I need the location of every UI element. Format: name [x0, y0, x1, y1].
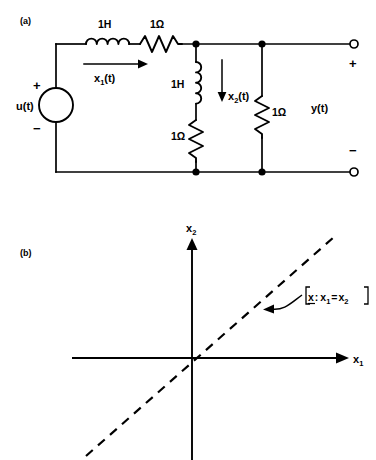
output-label: y(t) — [311, 102, 328, 114]
source-plus-sign: + — [33, 78, 41, 93]
resistor-R3-symbol — [255, 96, 269, 138]
identity-line-dashed — [86, 237, 334, 456]
junction-node-middle-bottom — [192, 168, 199, 175]
resistor-R1-symbol — [140, 36, 182, 52]
y-axis-label: x2 — [186, 222, 196, 237]
x-axis-label: x1 — [353, 353, 363, 368]
y-axis — [187, 238, 198, 460]
figure-root: (a) u(t) + − 1H — [0, 0, 376, 460]
annotation-close-bracket — [364, 287, 368, 304]
source-label: u(t) — [16, 100, 34, 112]
current-x1-label: x1(t) — [94, 72, 116, 87]
resistor-R2-symbol — [189, 120, 203, 162]
annotation-callout-arrow — [263, 295, 302, 314]
set-annotation: x:x1=x2 — [306, 287, 368, 306]
output-terminal-top — [350, 40, 358, 48]
panel-a-circuit: (a) u(t) + − 1H — [16, 16, 358, 176]
panel-a-label: (a) — [20, 16, 31, 26]
voltage-source-symbol — [39, 88, 73, 122]
figure-svg: (a) u(t) + − 1H — [0, 0, 376, 460]
resistor-R2-label: 1Ω — [171, 130, 185, 142]
resistor-R3-label: 1Ω — [272, 106, 286, 118]
x-axis — [72, 353, 349, 364]
panel-b-label: (b) — [20, 248, 32, 258]
source-minus-sign: − — [33, 121, 41, 136]
inductor-L1-symbol — [86, 39, 129, 44]
inductor-L1-label: 1H — [98, 18, 111, 30]
inductor-L2-label: 1H — [171, 78, 184, 90]
output-terminal-bottom — [350, 168, 358, 176]
current-x2-arrow — [218, 60, 227, 102]
output-minus-sign: − — [349, 143, 357, 158]
output-plus-sign: + — [349, 56, 357, 71]
panel-b-plot: (b) x1 x2 x: — [20, 222, 368, 460]
resistor-R1-label: 1Ω — [150, 18, 164, 30]
junction-node-right-bottom — [258, 168, 265, 175]
current-x1-arrow — [84, 60, 148, 69]
current-x2-label: x2(t) — [228, 90, 250, 105]
inductor-L2-symbol — [196, 62, 201, 104]
